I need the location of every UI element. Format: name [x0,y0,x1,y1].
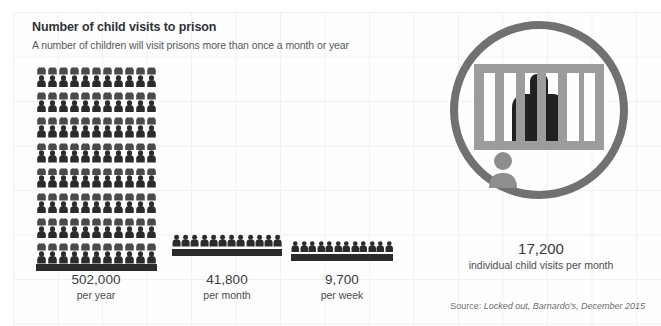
person-pictogram-icon [69,150,80,163]
person-pictogram-icon [124,138,135,151]
person-pictogram-icon [102,175,113,188]
pictogram-rows [172,232,282,249]
person-pictogram-icon [124,238,135,251]
person-pictogram-icon [135,62,146,75]
person-pictogram-icon [36,100,47,113]
person-pictogram-icon [113,112,124,125]
person-pictogram-icon [47,238,58,251]
person-pictogram-icon [36,138,47,151]
person-pictogram-icon [47,62,58,75]
person-pictogram-icon [80,150,91,163]
person-pictogram-icon [36,226,47,239]
person-pictogram-icon [36,251,47,264]
person-pictogram-icon [124,62,135,75]
pictogram-row [36,112,157,125]
person-pictogram-icon [124,163,135,176]
person-pictogram-icon [91,213,102,226]
person-pictogram-icon [135,163,146,176]
person-pictogram-icon [91,238,102,251]
person-pictogram-icon [102,112,113,125]
person-pictogram-icon [80,226,91,239]
person-pictogram-icon [69,213,80,226]
person-pictogram-icon [113,213,124,226]
person-pictogram-icon [47,150,58,163]
person-pictogram-icon [69,62,80,75]
person-pictogram-icon [135,87,146,100]
person-pictogram-icon [351,239,360,254]
person-pictogram-icon [47,213,58,226]
person-pictogram-icon [102,75,113,88]
person-pictogram-icon [124,188,135,201]
person-pictogram-icon [124,100,135,113]
person-pictogram-icon [69,87,80,100]
person-pictogram-icon [80,112,91,125]
person-pictogram-icon [58,226,69,239]
pictogram-row [36,62,157,75]
person-pictogram-icon [80,62,91,75]
person-pictogram-icon [113,188,124,201]
person-pictogram-icon [273,232,282,249]
person-pictogram-icon [47,251,58,264]
person-pictogram-icon [47,188,58,201]
pictogram-row [172,232,282,249]
person-pictogram-icon [359,239,368,254]
person-pictogram-icon [146,150,157,163]
person-pictogram-icon [91,87,102,100]
person-pictogram-icon [58,188,69,201]
person-pictogram-icon [91,112,102,125]
person-pictogram-icon [209,232,218,249]
person-pictogram-icon [135,251,146,264]
person-pictogram-icon [300,239,309,254]
person-pictogram-icon [124,175,135,188]
person-pictogram-icon [113,251,124,264]
person-pictogram-icon [47,112,58,125]
source-publication: Locked out, Barnardo's, December 2015 [484,301,645,311]
person-pictogram-icon [255,232,264,249]
person-pictogram-icon [113,138,124,151]
pictogram-row [36,100,157,113]
person-pictogram-icon [91,226,102,239]
person-pictogram-icon [80,138,91,151]
person-pictogram-icon [69,201,80,214]
pictogram-row [36,175,157,188]
person-pictogram-icon [47,163,58,176]
person-pictogram-icon [146,226,157,239]
person-pictogram-icon [80,75,91,88]
person-pictogram-icon [135,201,146,214]
pictogram-group-per-year [36,62,157,271]
person-pictogram-icon [69,112,80,125]
person-pictogram-icon [58,213,69,226]
person-pictogram-icon [135,213,146,226]
person-pictogram-icon [69,226,80,239]
person-pictogram-icon [113,125,124,138]
person-pictogram-icon [47,201,58,214]
person-pictogram-icon [317,239,326,254]
person-pictogram-icon [36,62,47,75]
person-pictogram-icon [36,112,47,125]
person-pictogram-icon [146,125,157,138]
person-pictogram-icon [80,100,91,113]
person-pictogram-icon [58,125,69,138]
pictogram-row [36,75,157,88]
person-pictogram-icon [135,112,146,125]
person-pictogram-icon [325,239,334,254]
person-pictogram-icon [146,163,157,176]
person-pictogram-icon [47,226,58,239]
pictogram-row [36,213,157,226]
canvas-left-margin [0,0,13,326]
person-pictogram-icon [47,175,58,188]
person-pictogram-icon [124,213,135,226]
person-pictogram-icon [146,62,157,75]
person-pictogram-icon [291,239,300,254]
person-pictogram-icon [69,75,80,88]
person-pictogram-icon [36,213,47,226]
person-pictogram-icon [58,138,69,151]
person-pictogram-icon [58,175,69,188]
person-pictogram-icon [135,226,146,239]
person-pictogram-icon [69,175,80,188]
person-pictogram-icon [146,238,157,251]
person-pictogram-icon [113,175,124,188]
person-pictogram-icon [146,112,157,125]
pictogram-row [36,226,157,239]
person-pictogram-icon [69,238,80,251]
